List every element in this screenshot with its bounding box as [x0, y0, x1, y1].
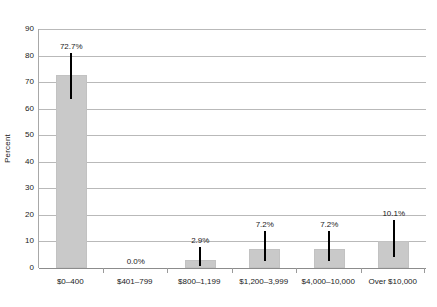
gridline-90 — [39, 29, 426, 30]
y-tick-label-10: 10 — [12, 237, 34, 245]
bar — [56, 75, 87, 268]
x-axis-tick — [167, 268, 168, 273]
error-bar — [70, 53, 72, 99]
gridline-40 — [39, 162, 426, 163]
bar-value-label: 72.7% — [60, 42, 83, 51]
bar-chart: Percent 0102030405060708090 72.7%0.0%2.9… — [0, 0, 437, 307]
gridline-70 — [39, 82, 426, 83]
x-axis-category-label: $800–1,199 — [178, 277, 220, 287]
error-bar — [328, 231, 330, 261]
y-tick-label-80: 80 — [12, 52, 34, 60]
y-tick-label-30: 30 — [12, 184, 34, 192]
x-axis-tick — [361, 268, 362, 273]
x-axis-tick-end — [424, 268, 425, 273]
gridline-30 — [39, 188, 426, 189]
x-axis-tick — [232, 268, 233, 273]
error-bar — [199, 247, 201, 267]
gridline-80 — [39, 56, 426, 57]
error-bar — [393, 220, 395, 257]
x-axis-tick — [103, 268, 104, 273]
plot-area: 72.7%0.0%2.9%7.2%7.2%10.1% — [38, 29, 426, 268]
y-tick-label-90: 90 — [12, 25, 34, 33]
x-axis-category-label: $1,200–3,999 — [239, 277, 288, 287]
x-axis-category-label: $4,000–10,000 — [302, 277, 355, 287]
x-axis: $0–400$401–799$800–1,199$1,200–3,999$4,0… — [38, 268, 425, 307]
gridline-10 — [39, 241, 426, 242]
bar-value-label: 2.9% — [191, 236, 209, 245]
error-bar — [264, 231, 266, 261]
y-tick-label-60: 60 — [12, 105, 34, 113]
y-tick-label-70: 70 — [12, 78, 34, 86]
bar-value-label: 7.2% — [256, 220, 274, 229]
bar-value-label: 7.2% — [320, 220, 338, 229]
bar-value-label: 0.0% — [127, 257, 145, 266]
x-axis-category-label: $0–400 — [57, 277, 84, 287]
gridline-50 — [39, 135, 426, 136]
bar-value-label: 10.1% — [382, 209, 405, 218]
y-tick-label-0: 0 — [12, 264, 34, 272]
x-axis-tick — [296, 268, 297, 273]
y-tick-label-50: 50 — [12, 131, 34, 139]
y-tick-label-40: 40 — [12, 158, 34, 166]
x-axis-category-label: Over $10,000 — [369, 277, 417, 287]
gridline-60 — [39, 109, 426, 110]
y-axis-tick-labels: 0102030405060708090 — [10, 0, 34, 307]
x-axis-category-label: $401–799 — [117, 277, 153, 287]
y-tick-label-20: 20 — [12, 211, 34, 219]
gridline-20 — [39, 215, 426, 216]
